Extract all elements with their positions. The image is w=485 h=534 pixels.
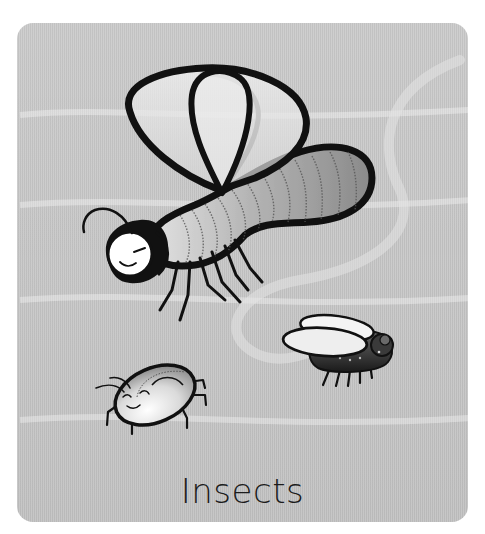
beetle xyxy=(96,353,206,436)
insects-illustration xyxy=(17,23,468,522)
insects-card[interactable]: Insects xyxy=(17,23,468,522)
small-fly xyxy=(282,311,393,386)
card-caption: Insects xyxy=(17,471,468,511)
large-fly xyxy=(83,68,372,320)
